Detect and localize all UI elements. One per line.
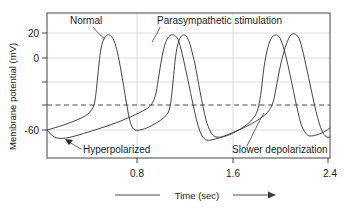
ytick-label-minus60: -60 — [25, 125, 40, 136]
time-arrow-icon — [268, 192, 276, 199]
ytick-label-20: 20 — [28, 28, 40, 39]
x-axis-title: Time (sec) — [175, 190, 220, 201]
annotation-hyperpolarized-label: Hyperpolarized — [83, 144, 150, 155]
ytick-label-0: 0 — [33, 53, 39, 64]
membrane-potential-figure: 20 0 -60 Membrane potential (mV) 0.8 1.6… — [0, 0, 344, 210]
xtick-label-16: 1.6 — [226, 168, 240, 179]
x-axis-ticks — [137, 158, 328, 163]
annotation-normal-label: Normal — [70, 15, 102, 26]
xtick-label-24: 2.4 — [323, 168, 337, 179]
plot-background — [47, 13, 330, 158]
xtick-label-08: 0.8 — [130, 168, 144, 179]
annotation-parasympathetic-label: Parasympathetic stimulation — [157, 15, 282, 26]
y-axis-title: Membrane potential (mV) — [7, 43, 18, 150]
y-axis-ticks — [42, 33, 47, 130]
chart-svg: 20 0 -60 Membrane potential (mV) 0.8 1.6… — [0, 0, 344, 210]
x-axis-title-group: Time (sec) — [115, 190, 276, 201]
annotation-slower-depolarization-label: Slower depolarization — [232, 144, 328, 155]
